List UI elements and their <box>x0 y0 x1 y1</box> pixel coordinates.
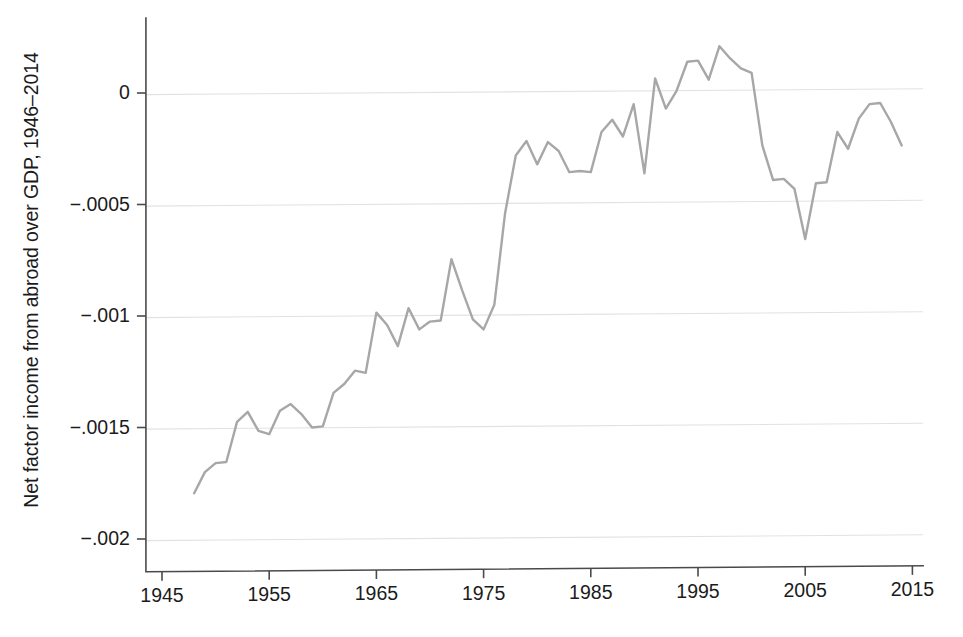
y-tick-label: −.0015 <box>70 416 130 438</box>
axes-group <box>146 18 923 572</box>
x-tick-label: 1965 <box>355 582 399 604</box>
x-tick-label: 1985 <box>569 581 613 603</box>
y-tick-label: −.002 <box>81 527 130 549</box>
plot-area: 0−.0005−.001−.0015−.002 1945195519651975… <box>0 0 963 637</box>
gridline <box>146 200 923 206</box>
chart-figure: Net factor income from abroad over GDP, … <box>0 0 963 637</box>
x-axis-line <box>146 566 923 572</box>
gridline <box>146 423 923 429</box>
gridline <box>146 89 923 95</box>
x-tick-label: 2015 <box>891 578 935 600</box>
y-ticks-group: 0−.0005−.001−.0015−.002 <box>70 81 146 549</box>
gridline <box>146 535 923 541</box>
gridline <box>146 312 923 318</box>
y-tick-label: 0 <box>119 81 130 103</box>
x-tick-label: 1945 <box>140 584 184 606</box>
x-tick-label: 2005 <box>784 579 828 601</box>
x-tick-label: 1955 <box>248 583 292 605</box>
y-tick-label: −.001 <box>81 304 130 326</box>
x-tick-label: 1975 <box>462 582 506 604</box>
x-tick-label: 1995 <box>676 580 720 602</box>
y-tick-label: −.0005 <box>70 193 130 215</box>
x-ticks-group: 19451955196519751985199520052015 <box>140 566 934 606</box>
